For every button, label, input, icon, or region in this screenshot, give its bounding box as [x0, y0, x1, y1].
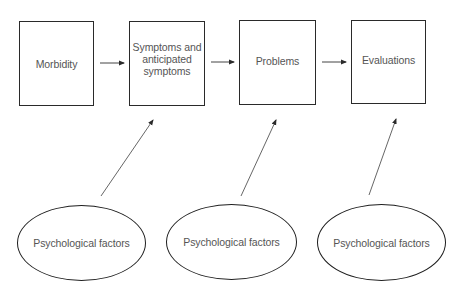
box-morbidity: Morbidity — [19, 21, 94, 106]
ellipse-psychological-factors-3: Psychological factors — [317, 204, 446, 281]
arrow-factor-2-to-problems — [241, 120, 276, 196]
box-symptoms: Symptoms and anticipated symptoms — [129, 21, 205, 106]
ellipse-psychological-factors-2: Psychological factors — [166, 204, 297, 280]
box-label: Morbidity — [36, 58, 78, 70]
box-problems: Problems — [239, 20, 316, 105]
box-label: Problems — [256, 55, 300, 67]
box-label: Evaluations — [362, 54, 415, 66]
diagram-canvas: Morbidity Symptoms and anticipated sympt… — [0, 0, 461, 296]
arrow-factor-1-to-symptoms — [101, 120, 153, 196]
ellipse-label: Psychological factors — [33, 237, 130, 249]
ellipse-label: Psychological factors — [333, 237, 430, 249]
box-label: Symptoms and anticipated symptoms — [131, 41, 203, 77]
ellipse-label: Psychological factors — [183, 236, 280, 248]
ellipse-psychological-factors-1: Psychological factors — [17, 205, 146, 281]
box-evaluations: Evaluations — [351, 20, 426, 104]
arrow-factor-3-to-evaluations — [369, 119, 396, 195]
